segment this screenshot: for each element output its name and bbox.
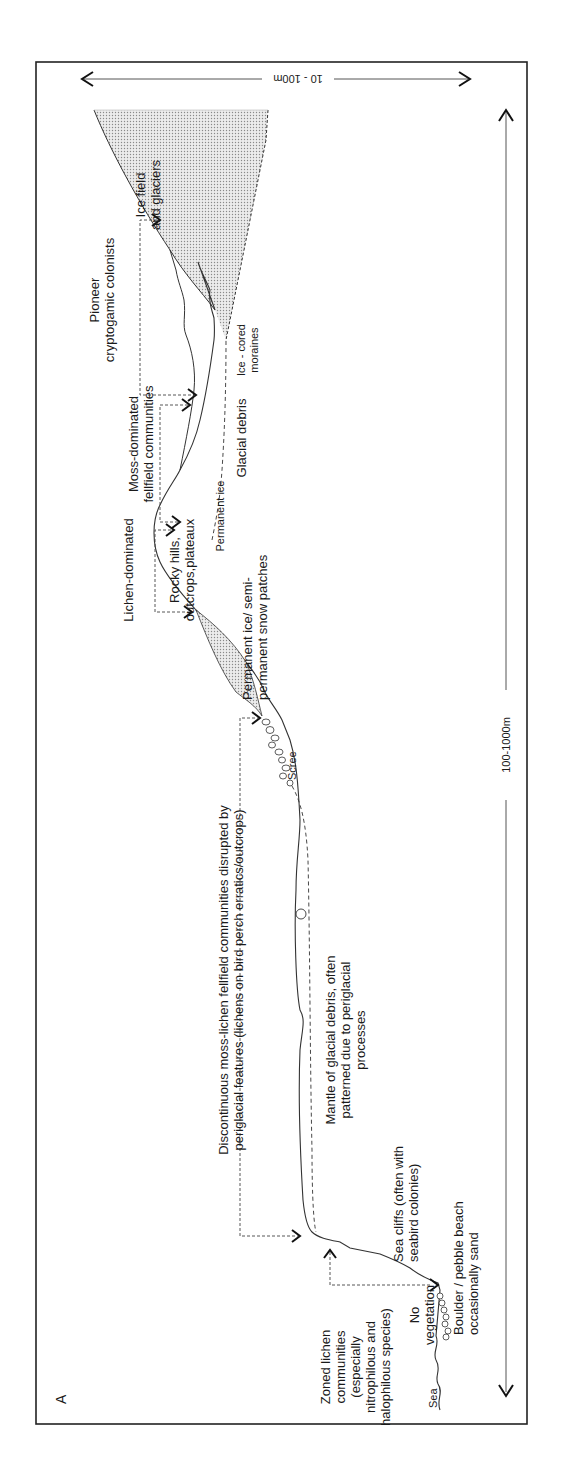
svg-text:communities: communities (333, 1330, 348, 1403)
feature-label-boulder-beach: Boulder / pebble beach occasionally sand (451, 1201, 481, 1335)
feature-label-permanent-snow: Permanent ice/ semi- permanent snow patc… (240, 554, 270, 700)
svg-text:Sea cliffs (often with: Sea cliffs (often with (391, 1146, 406, 1262)
feature-label-sea-cliffs: Sea cliffs (often with seabird colonies) (391, 1146, 421, 1262)
svg-text:Rocky hills,: Rocky hills, (167, 537, 182, 603)
feature-label-sea: Sea (427, 1388, 439, 1408)
zone-label-lichen-dominated: Lichen-dominated (121, 518, 136, 621)
svg-text:processes: processes (353, 1010, 368, 1070)
svg-text:occasionally sand: occasionally sand (466, 1232, 481, 1335)
feature-label-scree: Scree (286, 751, 298, 780)
svg-text:halophilous species): halophilous species) (378, 1308, 393, 1426)
svg-text:moraines: moraines (248, 327, 260, 373)
svg-text:nitrophilous and: nitrophilous and (363, 1321, 378, 1413)
svg-text:Ice field: Ice field (133, 173, 148, 218)
panel-label: A (53, 1394, 69, 1404)
zone-label-zoned-lichen: Zoned lichen communities (especially nit… (318, 1308, 393, 1426)
svg-text:Pioneer: Pioneer (87, 277, 102, 322)
vertical-scale-label: 10 - 100m (273, 73, 323, 85)
svg-text:Permanent ice/ semi-: Permanent ice/ semi- (240, 577, 255, 700)
zone-label-discontinuous: Discontinuous moss-lichen fellfield comm… (216, 805, 246, 1155)
feature-label-glacial-debris: Glacial debris (234, 398, 249, 477)
svg-text:seabird colonies): seabird colonies) (406, 1164, 421, 1262)
svg-text:Zoned lichen: Zoned lichen (318, 1330, 333, 1404)
svg-text:patterned due to periglacial: patterned due to periglacial (338, 961, 353, 1118)
horizontal-scale-label: 100-1000m (500, 717, 512, 773)
zone-label-moss-dominated: Moss-dominated fellfield communities (126, 385, 156, 503)
feature-label-permanent-ice: Permanent ice (214, 481, 226, 552)
svg-text:outcrops,plateaux: outcrops,plateaux (182, 518, 197, 621)
svg-text:cryptogamic colonists: cryptogamic colonists (102, 237, 117, 362)
svg-text:permanent snow patches: permanent snow patches (255, 554, 270, 700)
moraine-surface-line (170, 250, 195, 470)
svg-text:and glaciers: and glaciers (148, 159, 163, 230)
svg-text:vegetation: vegetation (422, 1285, 437, 1345)
zone-brackets (140, 220, 430, 1285)
svg-text:Ice - cored: Ice - cored (235, 324, 247, 376)
svg-text:(especially: (especially (348, 1336, 363, 1398)
erratic-boulder (296, 909, 306, 919)
svg-text:fellfield communities: fellfield communities (141, 385, 156, 503)
feature-label-mantle: Mantle of glacial debris, often patterne… (323, 955, 368, 1124)
zone-label-pioneer: Pioneer cryptogamic colonists (87, 237, 117, 362)
svg-text:No: No (407, 1307, 422, 1324)
svg-text:Mantle of glacial debris, ofte: Mantle of glacial debris, often (323, 955, 338, 1124)
glacial-mantle-dashed-line (292, 786, 316, 1232)
svg-text:Boulder / pebble beach: Boulder / pebble beach (451, 1201, 466, 1335)
feature-label-rocky-hills: Rocky hills, outcrops,plateaux (167, 518, 197, 621)
ice-field-shape (94, 110, 268, 340)
svg-text:Discontinuous moss-lichen fell: Discontinuous moss-lichen fellfield comm… (216, 805, 231, 1155)
feature-label-ice-cored-moraines: Ice - cored moraines (235, 324, 260, 376)
zone-label-no-vegetation: No vegetation (407, 1285, 437, 1345)
svg-text:Moss-dominated: Moss-dominated (126, 396, 141, 492)
svg-text:periglacial features (lichens: periglacial features (lichens on bird pe… (231, 809, 246, 1150)
ecological-profile-diagram: A 100-1000m 10 - 100m (0, 0, 581, 1484)
